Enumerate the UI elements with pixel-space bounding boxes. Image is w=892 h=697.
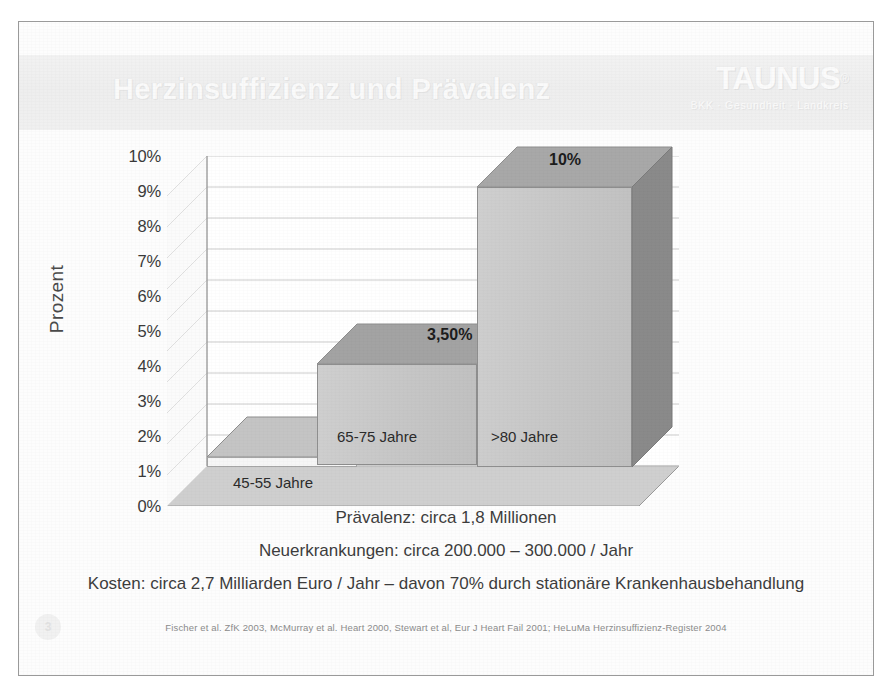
bar-category-label: 65-75 Jahre [337, 428, 417, 445]
y-tick-label: 8% [103, 217, 161, 236]
y-tick-label: 2% [103, 427, 161, 446]
page-number-badge: 3 [35, 614, 61, 640]
bar-side-face-shape [632, 147, 674, 467]
footer-line-prevalence: Prävalenz: circa 1,8 Millionen [19, 508, 873, 528]
slide-header-banner: Herzinsuffizienz und Prävalenz TAUNUS® B… [19, 55, 873, 130]
footer-line-incidence: Neuerkrankungen: circa 200.000 – 300.000… [19, 541, 873, 561]
plot-area: 45-55 Jahre 1% 65-75 Jahre 3,50% [167, 156, 679, 506]
bar-chart: Prozent 10% 9% 8% 7% 6% 5% 4% 3% 2% 1% 0… [19, 140, 874, 522]
page-title: Herzinsuffizienz und Prävalenz [113, 73, 550, 106]
y-tick-label: 1% [103, 462, 161, 481]
y-tick-label: 10% [103, 147, 161, 166]
y-tick-label: 3% [103, 392, 161, 411]
bar-category-label: >80 Jahre [491, 428, 558, 445]
y-tick-label: 7% [103, 252, 161, 271]
y-tick-label: 9% [103, 182, 161, 201]
y-axis-tick-labels: 10% 9% 8% 7% 6% 5% 4% 3% 2% 1% 0% [101, 140, 161, 522]
bar-over-80-jahre[interactable]: >80 Jahre 10% [477, 156, 632, 506]
footer-line-costs: Kosten: circa 2,7 Milliarden Euro / Jahr… [19, 574, 873, 594]
source-citation: Fischer et al. ZfK 2003, McMurray et al.… [19, 622, 873, 633]
bar-category-label: 45-55 Jahre [233, 474, 313, 491]
bar-value-label: 3,50% [427, 326, 472, 344]
y-tick-label: 4% [103, 357, 161, 376]
bar-front-face [317, 364, 477, 465]
registered-trademark-icon: ® [840, 72, 849, 86]
slide-canvas: Herzinsuffizienz und Prävalenz TAUNUS® B… [18, 21, 874, 676]
taunus-logo: TAUNUS® BKK · Gesundheit · Landkreis [690, 63, 849, 111]
logo-wordmark: TAUNUS [716, 63, 840, 94]
bar-front-face [477, 187, 632, 467]
y-tick-label: 5% [103, 322, 161, 341]
bar-65-75-jahre[interactable]: 65-75 Jahre 3,50% [317, 156, 477, 506]
logo-subtitle: BKK · Gesundheit · Landkreis [690, 100, 849, 111]
bar-value-label: 10% [549, 151, 581, 169]
y-axis-title: Prozent [46, 239, 68, 359]
y-tick-label: 6% [103, 287, 161, 306]
